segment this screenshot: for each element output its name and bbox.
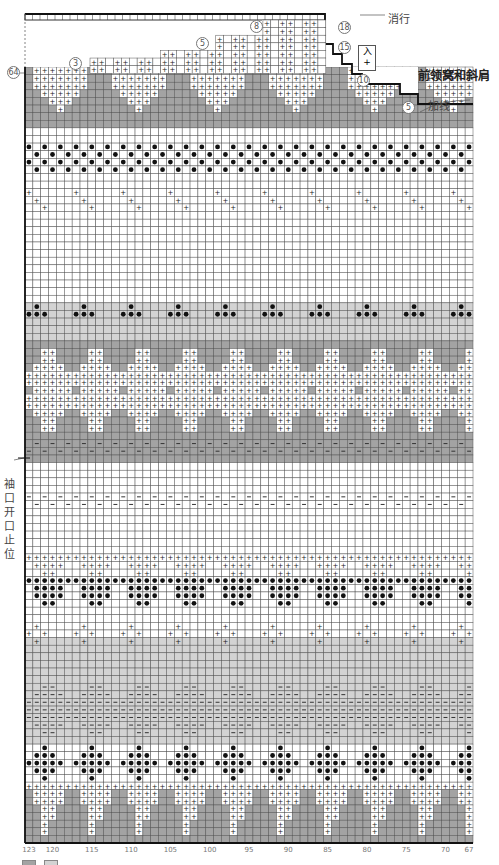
stitch-cell bbox=[72, 820, 80, 828]
stitch-cell bbox=[465, 835, 473, 843]
stitch-cell bbox=[72, 303, 80, 311]
stitch-cell bbox=[449, 600, 457, 608]
stitch-cell bbox=[143, 470, 151, 478]
stitch-cell bbox=[308, 767, 316, 775]
plus-symbol: + bbox=[128, 798, 134, 806]
dot-symbol bbox=[247, 144, 252, 149]
stitch-cell bbox=[56, 128, 64, 136]
stitch-cell bbox=[449, 736, 457, 744]
dot-symbol bbox=[325, 753, 330, 758]
dot-symbol bbox=[435, 593, 440, 598]
stitch-cell bbox=[104, 196, 112, 204]
stitch-cell bbox=[72, 364, 80, 372]
stitch-cell bbox=[214, 303, 222, 311]
stitch-cell bbox=[190, 97, 198, 105]
dot-symbol bbox=[66, 578, 71, 583]
stitch-cell bbox=[394, 676, 402, 684]
dot-symbol bbox=[144, 578, 149, 583]
stitch-cell bbox=[261, 97, 269, 105]
stitch-cell bbox=[72, 280, 80, 288]
stitch-cell bbox=[159, 805, 167, 813]
stitch-cell bbox=[371, 653, 379, 661]
stitch-cell bbox=[426, 288, 434, 296]
stitch-cell bbox=[261, 219, 269, 227]
stitch-cell bbox=[25, 181, 33, 189]
stitch-cell bbox=[449, 660, 457, 668]
stitch-cell bbox=[308, 219, 316, 227]
stitch-cell bbox=[174, 189, 182, 197]
stitch-cell bbox=[339, 189, 347, 197]
stitch-cell bbox=[111, 531, 119, 539]
plus-symbol: + bbox=[238, 813, 244, 821]
stitch-cell bbox=[159, 333, 167, 341]
stitch-cell bbox=[245, 310, 253, 318]
stitch-cell bbox=[104, 348, 112, 356]
stitch-cell bbox=[174, 828, 182, 836]
dot-symbol bbox=[34, 578, 39, 583]
stitch-cell bbox=[269, 600, 277, 608]
stitch-cell bbox=[379, 174, 387, 182]
stitch-cell bbox=[96, 242, 104, 250]
stitch-cell bbox=[371, 546, 379, 554]
stitch-cell bbox=[221, 493, 229, 501]
stitch-cell bbox=[237, 653, 245, 661]
stitch-cell bbox=[229, 227, 237, 235]
stitch-cell bbox=[371, 318, 379, 326]
stitch-cell bbox=[418, 615, 426, 623]
plus-symbol: + bbox=[372, 106, 378, 114]
stitch-cell bbox=[332, 333, 340, 341]
stitch-cell bbox=[308, 638, 316, 646]
stitch-cell bbox=[363, 493, 371, 501]
stitch-cell bbox=[174, 835, 182, 843]
plus-symbol: + bbox=[450, 554, 456, 562]
stitch-cell bbox=[332, 113, 340, 121]
stitch-cell bbox=[339, 630, 347, 638]
stitch-cell bbox=[347, 265, 355, 273]
stitch-cell bbox=[198, 135, 206, 143]
stitch-cell bbox=[104, 440, 112, 448]
stitch-cell bbox=[332, 265, 340, 273]
stitch-cell bbox=[394, 736, 402, 744]
stitch-cell bbox=[465, 531, 473, 539]
stitch-cell bbox=[237, 470, 245, 478]
stitch-cell bbox=[25, 691, 33, 699]
plus-symbol: + bbox=[301, 98, 307, 106]
stitch-cell bbox=[221, 660, 229, 668]
stitch-cell bbox=[442, 280, 450, 288]
plus-symbol: + bbox=[191, 813, 197, 821]
stitch-cell bbox=[253, 333, 261, 341]
stitch-cell bbox=[253, 82, 261, 90]
plus-symbol: + bbox=[81, 638, 87, 646]
stitch-cell bbox=[206, 835, 214, 843]
stitch-cell bbox=[56, 250, 64, 258]
stitch-cell bbox=[151, 348, 159, 356]
stitch-cell bbox=[190, 341, 198, 349]
stitch-cell bbox=[410, 288, 418, 296]
stitch-cell bbox=[457, 805, 465, 813]
stitch-cell bbox=[339, 425, 347, 433]
stitch-cell bbox=[33, 326, 41, 334]
stitch-cell bbox=[465, 653, 473, 661]
stitch-cell bbox=[449, 219, 457, 227]
stitch-cell bbox=[237, 113, 245, 121]
dot-symbol bbox=[420, 776, 425, 781]
stitch-cell bbox=[33, 105, 41, 113]
stitch-cell bbox=[332, 295, 340, 303]
stitch-cell bbox=[206, 516, 214, 524]
stitch-cell bbox=[119, 227, 127, 235]
stitch-cell bbox=[119, 820, 127, 828]
stitch-cell bbox=[363, 820, 371, 828]
stitch-cell bbox=[182, 660, 190, 668]
stitch-cell bbox=[442, 653, 450, 661]
stitch-cell bbox=[394, 759, 402, 767]
dot-symbol bbox=[231, 753, 236, 758]
stitch-cell bbox=[174, 775, 182, 783]
dot-symbol bbox=[105, 144, 110, 149]
stitch-cell bbox=[119, 615, 127, 623]
stitch-cell bbox=[237, 288, 245, 296]
stitch-cell bbox=[166, 813, 174, 821]
stitch-cell bbox=[253, 600, 261, 608]
stitch-cell bbox=[324, 607, 332, 615]
stitch-cell bbox=[190, 242, 198, 250]
plus-symbol: + bbox=[325, 425, 331, 433]
